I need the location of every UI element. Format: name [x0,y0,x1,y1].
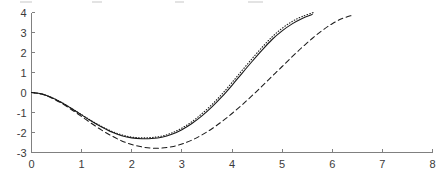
x-tick-label: 0 [28,159,34,170]
y-tick-label: -2 [17,127,27,138]
x-tick-label: 4 [229,159,235,170]
x-tick-label: 2 [129,159,135,170]
chart-series-group [32,12,353,148]
chart-figure: 012345678 -3-2-101234 [0,0,446,176]
x-tick-label: 5 [279,159,285,170]
x-tick-label: 7 [379,159,385,170]
y-tick-label: 4 [20,7,26,18]
y-tick-label: 3 [20,27,26,38]
x-tick-label: 1 [79,159,85,170]
series-dotted [32,12,315,138]
series-solid [32,15,313,139]
y-tick-label: 0 [20,87,26,98]
x-tick-label: 8 [429,159,435,170]
y-tick-label: -3 [17,147,27,158]
y-tick-label: 2 [20,47,26,58]
x-tick-label: 3 [179,159,185,170]
line-chart-plot [0,0,446,176]
y-tick-label: -1 [17,107,27,118]
x-tick-label: 6 [329,159,335,170]
y-tick-label: 1 [20,67,26,78]
series-dashed [32,15,353,148]
